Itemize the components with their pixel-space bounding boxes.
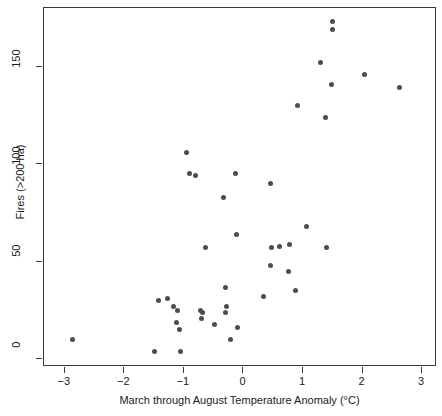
data-point (224, 304, 229, 309)
x-tick-mark (64, 367, 65, 373)
x-tick-label: 1 (287, 375, 317, 387)
data-point (268, 181, 273, 186)
data-point (261, 294, 266, 299)
data-point (330, 27, 335, 32)
y-tick-mark (36, 163, 42, 164)
data-point (200, 310, 205, 315)
data-point (233, 171, 238, 176)
data-point (221, 195, 226, 200)
data-point (175, 308, 180, 313)
data-point (235, 325, 240, 330)
data-point (203, 245, 208, 250)
y-axis-label: Fires (>200 ha) (14, 82, 26, 282)
y-tick-mark (36, 261, 42, 262)
y-tick-label: 0 (11, 342, 22, 374)
data-point (286, 269, 291, 274)
x-tick-mark (421, 367, 422, 373)
x-tick-mark (362, 367, 363, 373)
x-tick-mark (302, 367, 303, 373)
data-point (397, 85, 402, 90)
data-point (212, 322, 217, 327)
y-tick-mark (36, 358, 42, 359)
scatter-plot-figure: 050100150 −3−2−10123 March through Augus… (0, 0, 442, 416)
data-point (156, 298, 161, 303)
data-point (277, 244, 282, 249)
data-point (177, 327, 182, 332)
data-point (287, 242, 292, 247)
data-point (268, 263, 273, 268)
data-point (184, 150, 189, 155)
data-point (70, 337, 75, 342)
x-tick-mark (123, 367, 124, 373)
data-point (165, 296, 170, 301)
x-tick-label: 3 (406, 375, 436, 387)
plot-area-frame (43, 7, 436, 366)
x-tick-label: −1 (168, 375, 198, 387)
y-tick-mark (36, 66, 42, 67)
data-point (187, 171, 192, 176)
data-point (324, 245, 329, 250)
data-point (234, 232, 239, 237)
data-point (329, 82, 334, 87)
data-point (223, 310, 228, 315)
data-point (304, 224, 309, 229)
data-point (228, 337, 233, 342)
data-point (295, 103, 300, 108)
x-tick-label: 2 (347, 375, 377, 387)
data-point (318, 60, 323, 65)
data-point (223, 285, 228, 290)
data-points-layer (44, 8, 435, 365)
x-axis-label: March through August Temperature Anomaly… (43, 394, 436, 406)
data-point (323, 115, 328, 120)
x-tick-label: 0 (227, 375, 257, 387)
data-point (330, 19, 335, 24)
x-tick-label: −2 (108, 375, 138, 387)
x-tick-mark (183, 367, 184, 373)
y-tick-label: 150 (11, 49, 22, 81)
x-tick-mark (242, 367, 243, 373)
data-point (199, 316, 204, 321)
data-point (269, 245, 274, 250)
data-point (178, 349, 183, 354)
x-tick-label: −3 (49, 375, 79, 387)
data-point (293, 288, 298, 293)
data-point (362, 72, 367, 77)
data-point (152, 349, 157, 354)
data-point (193, 173, 198, 178)
data-point (174, 320, 179, 325)
